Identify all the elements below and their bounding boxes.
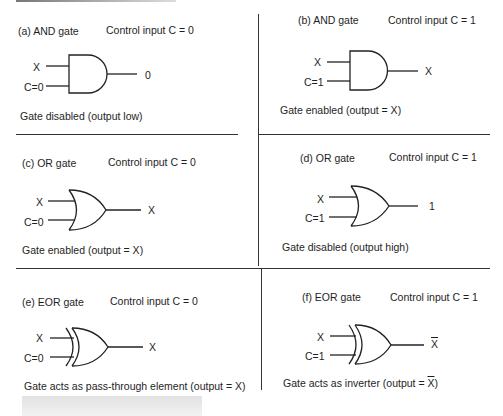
- xor-gate-icon: [0, 0, 503, 400]
- output-label-negated: X: [431, 338, 438, 350]
- caption: Gate acts as inverter (output = X): [283, 377, 438, 389]
- caption-suffix: ): [434, 377, 438, 389]
- caption-prefix: Gate acts as inverter (output =: [283, 377, 427, 389]
- bottom-edge-bar: [22, 396, 202, 416]
